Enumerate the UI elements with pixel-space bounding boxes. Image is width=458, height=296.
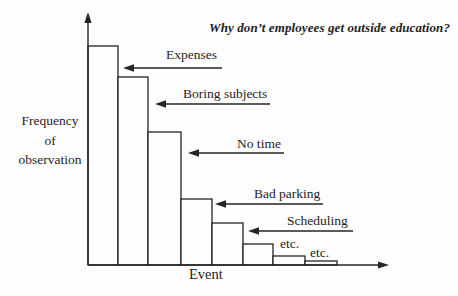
bar-scheduling-5 [212,223,243,265]
x-axis-arrowhead-icon [378,261,389,268]
annotation-expenses: Expenses [166,47,217,63]
bar-boring-subjects-2 [118,77,148,265]
annotation-etc-2: etc. [310,245,329,261]
annotation-arrowhead-icon-no-time [188,149,199,157]
pareto-chart-figure: Why don’t employees get outside educatio… [0,0,458,296]
y-axis-label-line3: observation [10,150,90,170]
annotation-bad-parking: Bad parking [254,186,320,202]
y-axis-label-line1: Frequency [10,111,90,131]
bar-no-time-3 [148,132,181,265]
annotation-arrowhead-icon-bad-parking [215,200,226,208]
y-axis-label-line2: of [10,131,90,151]
x-axis-label: Event [189,266,223,283]
bar-etc-7 [273,256,305,265]
annotation-arrowhead-icon-boring-subjects [155,100,166,108]
annotation-scheduling: Scheduling [287,213,348,229]
chart-title: Why don’t employees get outside educatio… [120,20,450,36]
bar-expenses-1 [88,46,118,265]
bar-bad-parking-4 [181,199,212,265]
annotation-arrowhead-icon-scheduling [248,227,259,235]
y-axis-arrowhead-icon [84,12,91,23]
annotation-no-time: No time [237,136,281,152]
annotation-arrowhead-icon-expenses [123,64,134,72]
annotation-boring-subjects: Boring subjects [183,86,267,102]
y-axis-label: Frequency of observation [10,111,90,170]
annotation-etc-1: etc. [280,236,299,252]
bar-etc-6 [243,244,273,265]
